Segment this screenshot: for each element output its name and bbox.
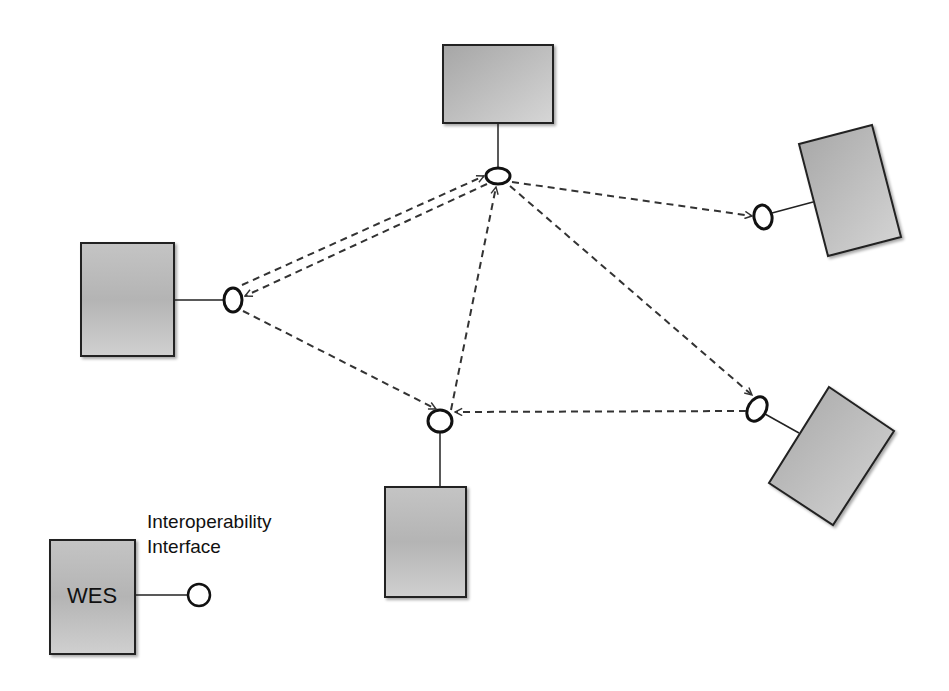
- connections: [242, 176, 752, 412]
- interoperability-diagram: WES Interoperability Interface: [0, 0, 949, 691]
- connection-top-to-right-bottom: [510, 186, 752, 395]
- legend-interface-label-line2: Interface: [147, 536, 221, 557]
- wes-node-left: [81, 243, 242, 356]
- connection-right-bottom-to-bottom: [455, 411, 746, 412]
- wes-node-top: [443, 45, 553, 184]
- wes-node-right-bottom: [743, 387, 894, 525]
- connection-bottom-to-top: [451, 187, 496, 410]
- legend-interface-icon: [188, 584, 210, 606]
- legend-wes-label: WES: [67, 583, 117, 608]
- connection-left-to-bottom: [243, 311, 436, 409]
- wes-node-right-top: [752, 125, 901, 256]
- interface-icon-right-top: [752, 204, 774, 231]
- interface-icon-left: [224, 288, 242, 312]
- wes-node-bottom: [385, 410, 466, 597]
- connection-top-to-right-top: [512, 182, 752, 216]
- connection-left-to-top: [242, 176, 484, 285]
- connection-top-to-left: [245, 184, 487, 296]
- interface-icon-right-bottom: [743, 393, 772, 425]
- interface-icon-top: [486, 168, 510, 184]
- interface-icon-bottom: [428, 410, 452, 432]
- legend: WES Interoperability Interface: [50, 511, 272, 654]
- legend-interface-label-line1: Interoperability: [147, 511, 272, 532]
